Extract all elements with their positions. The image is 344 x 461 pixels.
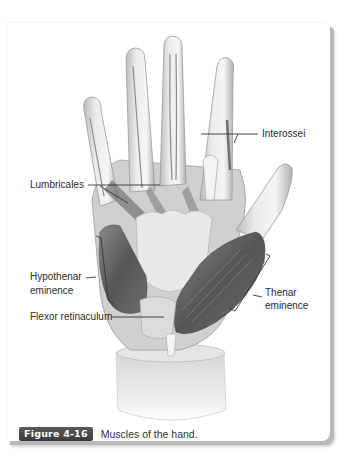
label-hypothenar-line2: eminence — [30, 285, 73, 297]
figure-number-badge: Figure 4-16 — [19, 427, 93, 441]
label-thenar-line2: eminence — [265, 300, 308, 312]
index-finger — [200, 58, 234, 200]
label-thenar-line1: Thenar — [265, 287, 297, 299]
label-lumbricales: Lumbricales — [30, 179, 84, 191]
label-interossei: Interossei — [262, 128, 305, 140]
thenar-leader — [253, 295, 262, 297]
label-hypothenar-line1: Hypothenar — [30, 271, 82, 283]
middle-finger — [160, 36, 186, 186]
label-flexor-retinaculum: Flexor retinaculum — [30, 311, 112, 323]
caption-text: Muscles of the hand. — [101, 428, 198, 440]
hand-muscle-illustration — [0, 0, 344, 461]
hypothenar-leader — [86, 277, 96, 278]
ring-finger — [126, 48, 155, 192]
figure-caption: Figure 4-16 Muscles of the hand. — [19, 426, 198, 442]
interossei-leader-2 — [234, 134, 238, 143]
